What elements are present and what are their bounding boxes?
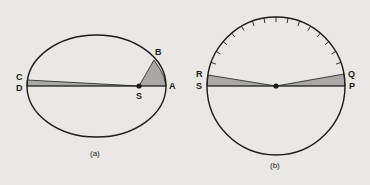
label-q: Q — [348, 70, 355, 79]
label-s-a: S — [136, 92, 142, 101]
label-b: B — [155, 48, 162, 57]
label-a: A — [169, 82, 176, 91]
caption-a: (a) — [90, 150, 100, 158]
label-c: C — [16, 73, 23, 82]
sun-focus-point — [136, 83, 141, 88]
diagram-canvas — [0, 0, 370, 185]
panel-a-figure — [27, 35, 166, 137]
center-point — [273, 83, 278, 88]
shaded-sector-scd — [27, 80, 139, 86]
label-p: P — [349, 82, 355, 91]
shaded-sector-sab — [139, 60, 166, 86]
panel-b-figure — [207, 17, 345, 155]
shaded-sector-left — [207, 75, 276, 86]
caption-b: (b) — [270, 162, 280, 170]
shaded-sector-right — [276, 74, 345, 86]
label-d: D — [16, 84, 23, 93]
tick-marks — [211, 17, 341, 64]
label-s-b: S — [196, 82, 202, 91]
label-r: R — [196, 70, 203, 79]
